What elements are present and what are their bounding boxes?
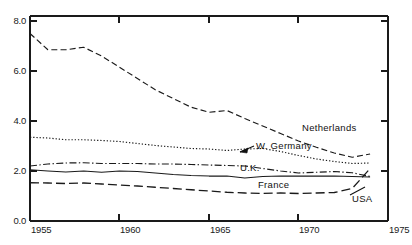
series-line-u-k	[30, 163, 370, 177]
line-chart: 0.0 2.0 4.0 6.0 8.0 1955 1960 1965 1970 …	[0, 0, 412, 245]
x-tick-label-4: 1975	[389, 224, 409, 235]
data-series-layer	[30, 34, 370, 194]
series-label-france: France	[258, 179, 289, 190]
series-label-usa: USA	[352, 193, 373, 204]
y-tick-label-1: 2.0	[13, 165, 26, 176]
y-tick-label-2: 4.0	[13, 115, 26, 126]
series-label-u-k: U.K.	[240, 162, 260, 173]
series-line-usa	[30, 169, 370, 194]
series-line-netherlands	[30, 34, 370, 158]
x-tick-label-2: 1965	[210, 224, 230, 235]
chart-page: 0.0 2.0 4.0 6.0 8.0 1955 1960 1965 1970 …	[0, 0, 412, 245]
series-annotations: NetherlandsW. GermanyU.K.FranceUSA	[240, 122, 373, 204]
x-tick-label-3: 1970	[299, 224, 319, 235]
series-label-netherlands: Netherlands	[302, 122, 357, 133]
y-tick-label-3: 6.0	[13, 65, 26, 76]
y-axis-tick-labels: 0.0 2.0 4.0 6.0 8.0	[13, 15, 26, 226]
w-germany-leader	[240, 146, 254, 153]
y-tick-label-4: 8.0	[13, 15, 26, 26]
x-axis-tick-labels: 1955 1960 1965 1970 1975	[31, 224, 409, 235]
x-tick-label-0: 1955	[31, 224, 51, 235]
y-axis-ticks	[30, 21, 388, 221]
x-tick-label-1: 1960	[120, 224, 140, 235]
series-label-w-germany: W. Germany	[256, 140, 312, 151]
series-line-france	[30, 170, 370, 178]
series-line-w-germany	[30, 137, 370, 163]
y-tick-label-0: 0.0	[13, 215, 26, 226]
